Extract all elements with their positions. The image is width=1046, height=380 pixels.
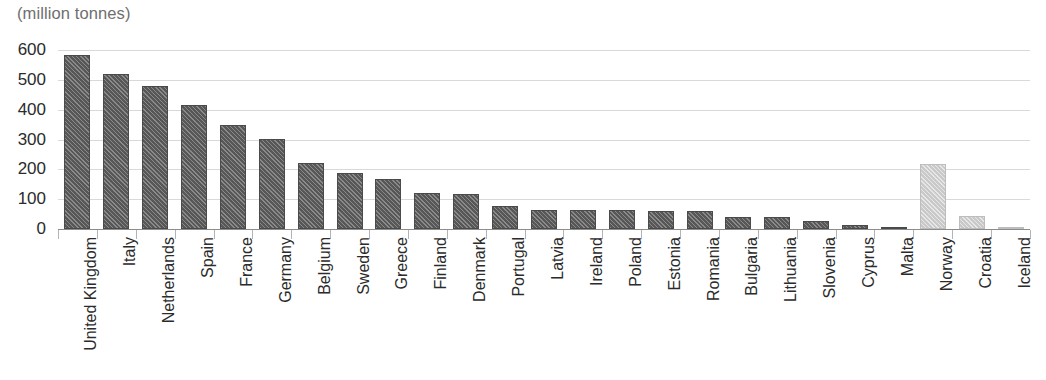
x-axis-tick-label: Poland bbox=[628, 237, 644, 377]
bar bbox=[764, 217, 790, 229]
bar-chart: (million tonnes) 0100200300400500600 Uni… bbox=[0, 0, 1046, 380]
x-axis-tick-label: Norway bbox=[939, 237, 955, 377]
x-axis-tick-label: Belgium bbox=[317, 237, 333, 377]
bar bbox=[259, 139, 285, 229]
bar bbox=[881, 227, 907, 229]
bar bbox=[842, 225, 868, 229]
x-axis-tick-label: Iceland bbox=[1017, 237, 1033, 377]
bar bbox=[142, 86, 168, 229]
x-axis-tick-label: Italy bbox=[122, 237, 138, 377]
x-axis-tick-label: Denmark bbox=[472, 237, 488, 377]
bar bbox=[298, 163, 324, 229]
bar bbox=[998, 227, 1024, 229]
y-axis-tick-label: 100 bbox=[0, 190, 46, 207]
x-axis-tick-label: United Kingdom bbox=[83, 237, 99, 377]
y-axis-tick-label: 0 bbox=[0, 220, 46, 237]
bar bbox=[375, 179, 401, 229]
bar bbox=[725, 217, 751, 229]
chart-unit-title: (million tonnes) bbox=[17, 4, 130, 23]
bar bbox=[414, 193, 440, 229]
x-axis-tick-label: Croatia bbox=[978, 237, 994, 377]
x-axis-tick-label: Estonia bbox=[667, 237, 683, 377]
bar bbox=[103, 74, 129, 229]
y-axis-tick-label: 300 bbox=[0, 131, 46, 148]
x-axis-tick-label: France bbox=[239, 237, 255, 377]
bar bbox=[920, 164, 946, 229]
y-axis-tick-label: 200 bbox=[0, 160, 46, 177]
bar bbox=[959, 216, 985, 229]
bar bbox=[648, 211, 674, 229]
x-axis-tick-label: Spain bbox=[200, 237, 216, 377]
x-axis-tick-label: Ireland bbox=[589, 237, 605, 377]
bar-series bbox=[58, 50, 1030, 229]
y-axis-tick-label: 400 bbox=[0, 101, 46, 118]
x-axis-tick-label: Sweden bbox=[356, 237, 372, 377]
bar bbox=[64, 55, 90, 229]
bar bbox=[453, 194, 479, 229]
bar bbox=[803, 221, 829, 229]
x-axis-tick-label: Malta bbox=[900, 237, 916, 377]
bar bbox=[492, 206, 518, 229]
x-axis-tick-label: Portugal bbox=[511, 237, 527, 377]
bar bbox=[220, 125, 246, 229]
bar bbox=[531, 210, 557, 229]
x-axis-tick-label: Bulgaria bbox=[744, 237, 760, 377]
x-axis-tick-label: Netherlands bbox=[161, 237, 177, 377]
x-axis-tick-label: Romania bbox=[706, 237, 722, 377]
bar bbox=[337, 173, 363, 229]
x-axis-tick-label: Germany bbox=[278, 237, 294, 377]
x-axis-tick-label: Lithuania bbox=[783, 237, 799, 377]
y-axis-tick-label: 600 bbox=[0, 41, 46, 58]
bar bbox=[687, 211, 713, 229]
bar bbox=[609, 210, 635, 229]
x-axis-tick-label: Latvia bbox=[550, 237, 566, 377]
x-axis-tick bbox=[58, 230, 59, 239]
bar bbox=[570, 210, 596, 229]
x-axis-tick-label: Greece bbox=[394, 237, 410, 377]
y-axis-tick-label: 500 bbox=[0, 71, 46, 88]
x-axis-tick-label: Cyprus bbox=[861, 237, 877, 377]
bar bbox=[181, 105, 207, 229]
x-axis-tick-label: Finland bbox=[433, 237, 449, 377]
x-axis-labels: United KingdomItalyNetherlandsSpainFranc… bbox=[58, 239, 1030, 380]
x-axis-tick-label: Slovenia bbox=[822, 237, 838, 377]
